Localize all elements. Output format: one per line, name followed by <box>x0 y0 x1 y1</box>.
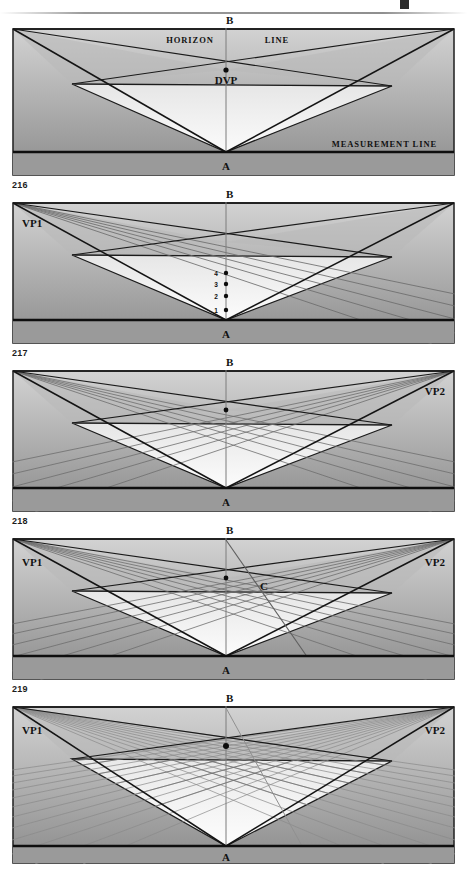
figure-number-218: 218 <box>12 516 28 526</box>
panel-218-apex-b-outer: B <box>226 356 233 368</box>
panel-final-apex-b-outer: B <box>226 692 233 704</box>
panel-219-apex-a-label: A <box>222 664 230 676</box>
tick-dot-3 <box>224 282 228 286</box>
panel-216-horizon-label-right: LINE <box>265 35 289 45</box>
panel-219-vp2-label: VP2 <box>425 556 446 568</box>
panel-final-dvp-dot <box>223 743 229 749</box>
panel-219-vp1-label: VP1 <box>22 556 42 568</box>
tick-label-2: 2 <box>214 293 218 300</box>
panel-216-base-band <box>13 152 454 175</box>
panel-219-apex-b-outer: B <box>226 524 233 536</box>
panel-218-base-band <box>13 488 454 511</box>
figure-number-219: 219 <box>12 684 28 694</box>
panel-219: VP1 VP2 C A <box>12 538 455 680</box>
tick-dot-4 <box>224 271 228 275</box>
tick-label-3: 3 <box>214 281 218 288</box>
page-header-glyph <box>400 0 409 9</box>
panel-219-dvp-dot <box>224 576 229 581</box>
panel-219-base-band <box>13 656 454 679</box>
panel-216-dvp-label: DVP <box>215 74 238 86</box>
panel-218: VP2 A <box>12 370 455 512</box>
tick-dot-2 <box>224 294 228 298</box>
panel-218-dvp-dot <box>224 408 229 413</box>
plate-page: B HORIZON LINE <box>0 0 467 870</box>
panel-217-apex-a-label: A <box>222 328 230 340</box>
panel-final-base-band <box>13 846 454 863</box>
page-top-rule <box>0 12 467 14</box>
panel-216-horizon-label-left: HORIZON <box>166 35 213 45</box>
panel-216-measurement-label: MEASUREMENT LINE <box>332 139 437 149</box>
panel-218-vp2-label: VP2 <box>425 385 446 397</box>
panel-final: VP1 VP2 A <box>12 706 455 864</box>
figure-number-216: 216 <box>12 180 28 190</box>
panel-final-apex-a-label: A <box>222 851 230 863</box>
panel-216: HORIZON LINE DVP MEASUREMENT LINE A <box>12 28 455 176</box>
panel-219-point-c-label: C <box>260 580 268 592</box>
panel-final-vp1-label: VP1 <box>22 724 42 736</box>
tick-label-1: 1 <box>214 307 218 314</box>
panel-217: 4 3 2 1 VP1 A <box>12 202 455 344</box>
panel-216-apex-b-outer: B <box>226 14 233 26</box>
panel-217-apex-b-outer: B <box>226 188 233 200</box>
figure-number-217: 217 <box>12 348 28 358</box>
panel-216-dvp-dot <box>223 67 228 72</box>
panel-217-base-band <box>13 320 454 343</box>
panel-216-apex-a-label: A <box>222 160 230 172</box>
panel-217-vp1-label: VP1 <box>22 217 42 229</box>
tick-dot-1 <box>224 308 228 312</box>
panel-218-apex-a-label: A <box>222 496 230 508</box>
tick-label-4: 4 <box>214 270 218 277</box>
panel-final-vp2-label: VP2 <box>425 724 446 736</box>
